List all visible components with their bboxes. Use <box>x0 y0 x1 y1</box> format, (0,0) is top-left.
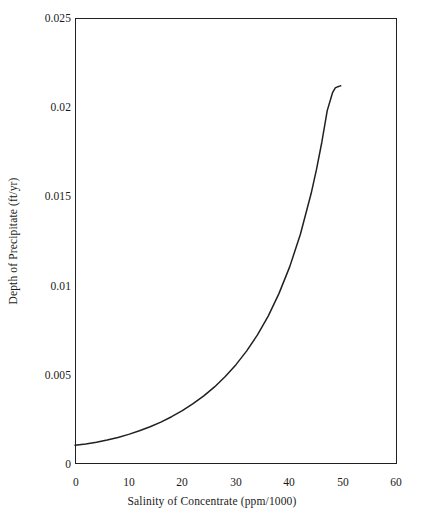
x-tick-label: 0 <box>56 476 96 489</box>
x-tick-label: 40 <box>269 476 309 489</box>
y-axis-title: Depth of Precipitate (ft/yr) <box>7 177 19 304</box>
x-tick-label: 30 <box>216 476 256 489</box>
data-series-line <box>75 86 341 445</box>
x-tick-label: 60 <box>376 476 416 489</box>
x-tick-label: 10 <box>109 476 149 489</box>
plot-area <box>75 18 397 464</box>
x-axis-title: Salinity of Concentrate (ppm/1000) <box>0 495 424 507</box>
x-axis-ticks: 0 10 20 30 40 50 60 <box>0 476 424 492</box>
chart-figure: 0.025 0.02 0.015 0.01 0.005 0 0 10 20 30… <box>0 0 424 532</box>
x-tick-label: 20 <box>162 476 202 489</box>
y-axis-title-wrapper: Depth of Precipitate (ft/yr) <box>4 18 22 464</box>
x-tick-label: 50 <box>323 476 363 489</box>
